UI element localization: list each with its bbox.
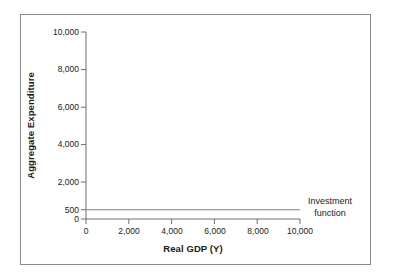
- figure-container: Aggregate Expenditure Real GDP (Y) 10,00…: [0, 0, 393, 280]
- x-axis-ticks: [86, 219, 300, 224]
- plot-area: [0, 0, 393, 280]
- y-axis-ticks: [81, 32, 86, 219]
